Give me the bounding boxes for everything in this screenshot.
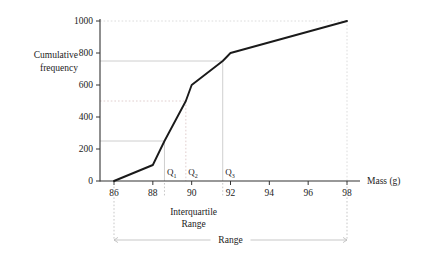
q2-label: Q2 [188, 167, 198, 179]
x-tick-label-86: 86 [109, 188, 119, 198]
interquartile-range-label-backing [160, 197, 228, 207]
x-tick-label-98: 98 [342, 188, 352, 198]
x-tick-label-94: 94 [265, 188, 275, 198]
y-tick-label-200: 200 [79, 144, 94, 154]
y-tick-label-1000: 1000 [74, 16, 93, 26]
y-axis-title-line2: frequency [40, 63, 78, 73]
svg-text:Q2: Q2 [188, 167, 198, 179]
y-tick-label-600: 600 [79, 80, 94, 90]
q3-label: Q3 [225, 167, 235, 179]
x-axis-title: Mass (g) [367, 176, 401, 187]
x-tick-label-88: 88 [148, 188, 158, 198]
svg-text:Q3: Q3 [225, 167, 235, 179]
x-tick-label-96: 96 [303, 188, 313, 198]
x-tick-label-90: 90 [187, 188, 197, 198]
cumulative-frequency-chart: 0200400600800100086889092949698Mass (g)C… [0, 0, 421, 257]
y-axis-title-line1: Cumulative [34, 50, 78, 60]
q1-label: Q1 [167, 167, 177, 179]
x-tick-label-92: 92 [226, 188, 236, 198]
y-tick-label-0: 0 [88, 176, 93, 186]
chart-canvas: 0200400600800100086889092949698Mass (g)C… [0, 0, 421, 257]
y-tick-label-800: 800 [79, 48, 94, 58]
svg-text:Q1: Q1 [167, 167, 177, 179]
interquartile-range-label-line2: Range [181, 219, 205, 229]
cumulative-frequency-curve [114, 21, 347, 181]
range-label-line1: Range [218, 235, 242, 245]
interquartile-range-label-line1: Interquartile [170, 207, 217, 217]
y-tick-label-400: 400 [79, 112, 94, 122]
